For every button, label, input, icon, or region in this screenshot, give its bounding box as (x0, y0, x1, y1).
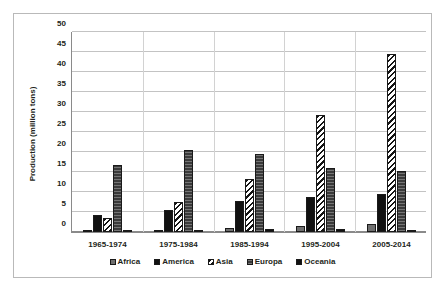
y-axis-title: Production (million tons) (29, 87, 37, 182)
legend-label: Oceania (304, 258, 335, 266)
legend-item-africa[interactable]: Africa (110, 258, 141, 266)
y-axis-tick-label: 45 (57, 40, 66, 48)
y-axis-tick-label: 25 (57, 120, 66, 128)
x-axis-tick-label: 1965-1974 (88, 241, 126, 249)
bar-oceania-1965-1974[interactable] (123, 230, 132, 232)
plot-area: 50454035302520151050 1965-19741975-19841… (71, 32, 426, 233)
bar-oceania-1995-2004[interactable] (336, 229, 345, 232)
y-axis-tick-label: 50 (57, 20, 66, 28)
bar-america-1975-1984[interactable] (164, 210, 173, 233)
legend-label: Europa (255, 258, 283, 266)
legend-label: Asia (216, 258, 233, 266)
bar-asia-2005-2014[interactable] (387, 54, 396, 232)
legend-item-asia[interactable]: Asia (208, 258, 233, 266)
bar-group (143, 32, 214, 232)
x-axis-tick-label: 1985-1994 (230, 241, 268, 249)
chart-frame: Production (million tons) 50454035302520… (13, 13, 432, 278)
y-axis-tick-label: 40 (57, 60, 66, 68)
bar-america-1965-1974[interactable] (93, 215, 102, 232)
bar-oceania-1985-1994[interactable] (265, 229, 274, 232)
bar-europa-2005-2014[interactable] (397, 171, 406, 233)
bar-america-1995-2004[interactable] (306, 197, 315, 232)
bar-asia-1995-2004[interactable] (316, 115, 325, 232)
bar-oceania-1975-1984[interactable] (194, 230, 203, 232)
bar-europa-1965-1974[interactable] (113, 165, 122, 232)
bar-africa-1975-1984[interactable] (154, 230, 163, 232)
bar-group (72, 32, 143, 232)
legend-label: Africa (118, 258, 141, 266)
legend-swatch-icon (154, 259, 160, 265)
bar-africa-2005-2014[interactable] (367, 224, 376, 232)
bar-europa-1995-2004[interactable] (326, 168, 335, 232)
legend-swatch-icon (208, 259, 214, 265)
y-axis-tick-label: 20 (57, 140, 66, 148)
chart-legend: AfricaAmericaAsiaEuropaOceania (14, 258, 431, 266)
legend-swatch-icon (110, 259, 116, 265)
y-axis-tick-label: 0 (62, 220, 66, 228)
y-axis-tick-label: 15 (57, 160, 66, 168)
y-axis-tick-label: 30 (57, 100, 66, 108)
bar-europa-1985-1994[interactable] (255, 154, 264, 232)
x-axis-tick-label: 2005-2014 (372, 241, 410, 249)
bar-oceania-2005-2014[interactable] (407, 230, 416, 232)
y-axis-tick-label: 35 (57, 80, 66, 88)
bar-group (356, 32, 427, 232)
bar-asia-1965-1974[interactable] (103, 218, 112, 232)
bar-asia-1975-1984[interactable] (174, 202, 183, 232)
bar-america-1985-1994[interactable] (235, 201, 244, 232)
y-axis-tick-label: 10 (57, 180, 66, 188)
x-axis-tick-label: 1995-2004 (301, 241, 339, 249)
legend-label: America (162, 258, 194, 266)
legend-item-america[interactable]: America (154, 258, 194, 266)
bar-group (285, 32, 356, 232)
legend-swatch-icon (247, 259, 253, 265)
bar-group (214, 32, 285, 232)
bar-asia-1985-1994[interactable] (245, 179, 254, 232)
bar-europa-1975-1984[interactable] (184, 150, 193, 232)
legend-item-oceania[interactable]: Oceania (296, 258, 335, 266)
bar-america-2005-2014[interactable] (377, 194, 386, 232)
legend-item-europa[interactable]: Europa (247, 258, 283, 266)
legend-swatch-icon (296, 259, 302, 265)
bar-africa-1965-1974[interactable] (83, 230, 92, 232)
x-axis-tick-label: 1975-1984 (159, 241, 197, 249)
bar-africa-1995-2004[interactable] (296, 226, 305, 232)
y-axis-tick-label: 5 (62, 200, 66, 208)
bar-africa-1985-1994[interactable] (225, 228, 234, 232)
